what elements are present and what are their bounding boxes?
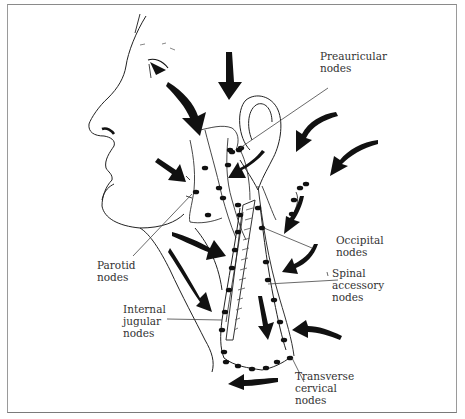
leader-preauricular [240,88,328,148]
internal-jugular-chain [219,208,243,358]
parotid-nodes [193,148,242,218]
label-internal-jugular-nodes: Internal jugular nodes [123,303,166,339]
label-occipital-nodes: Occipital nodes [336,234,384,258]
brow-marks [140,43,175,50]
eye [148,59,168,78]
lymph-node-illustration [0,0,465,419]
label-spinal-accessory-nodes: Spinal accessory nodes [332,267,384,303]
leader-spinal-accessory [268,280,338,284]
ear [240,96,281,190]
leader-internal-jugular [167,319,222,320]
nostril [102,128,114,134]
leader-parotid [133,194,192,256]
drainage-arrows [155,52,378,390]
label-transverse-cervical-nodes: Transverse cervical nodes [295,370,354,406]
label-parotid-nodes: Parotid nodes [97,259,136,283]
transverse-cervical-chain [223,356,293,372]
hair-stroke [135,14,140,33]
label-preauricular-nodes: Preauricular nodes [320,50,387,74]
